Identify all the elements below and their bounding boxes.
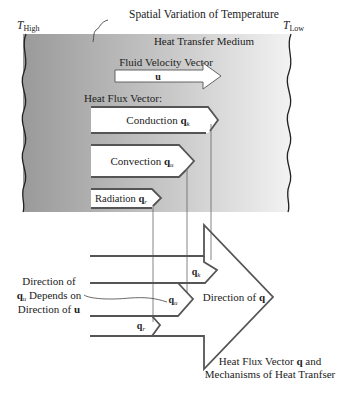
t-high-label: THigh bbox=[17, 19, 39, 33]
heat-transfer-diagram: Spatial Variation of Temperature THigh T… bbox=[0, 0, 350, 393]
t-low-label: TLow bbox=[283, 19, 304, 33]
velocity-symbol: u bbox=[155, 71, 161, 82]
medium-label: Heat Transfer Medium bbox=[154, 35, 255, 47]
note-line-3: Direction of u bbox=[18, 303, 80, 315]
qu-label: qu bbox=[168, 294, 178, 307]
qr-label: qr bbox=[137, 320, 146, 333]
conduction-label: Conduction qk bbox=[126, 114, 190, 128]
note-line-1: Direction of bbox=[22, 275, 76, 287]
velocity-label: Fluid Velocity Vector bbox=[119, 56, 213, 68]
direction-of-q-label: Direction of q bbox=[203, 291, 266, 303]
qk-label: qk bbox=[192, 266, 202, 279]
caption-line-2: Mechanisms of Heat Tranfser bbox=[205, 368, 336, 380]
convection-label: Convection qu bbox=[110, 155, 174, 169]
note-line-2: qu Depends on bbox=[17, 289, 82, 303]
caption-line-1: Heat Flux Vector q and bbox=[219, 355, 322, 367]
note-leader-line bbox=[84, 295, 167, 302]
diagram-title: Spatial Variation of Temperature bbox=[129, 8, 279, 21]
heat-flux-label: Heat Flux Vector: bbox=[84, 92, 162, 104]
qu-component-arrow bbox=[90, 283, 193, 316]
